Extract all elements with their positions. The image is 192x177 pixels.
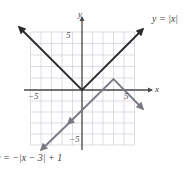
y-axis-tick-5: 5	[66, 31, 71, 40]
graph-figure: 5 −5 −5 5 x y y = |x| y = −|x − 3| + 1	[0, 0, 192, 177]
y-axis-tick-negative-5: −5	[69, 135, 80, 144]
x-axis-label: x	[155, 85, 159, 94]
curve-absolute-value	[19, 27, 143, 90]
x-axis-tick-5: 5	[124, 92, 129, 101]
curve-reflected-shifted-tail	[41, 124, 68, 150]
curve-label-reflected-shifted: y = −|x − 3| + 1	[0, 153, 62, 163]
coordinate-plane-svg	[0, 0, 192, 177]
curve-reflected-shifted	[68, 79, 143, 124]
y-axis-label: y	[78, 10, 82, 19]
x-axis-tick-negative-5: −5	[28, 92, 39, 101]
curve-label-absolute-value: y = |x|	[152, 14, 178, 24]
